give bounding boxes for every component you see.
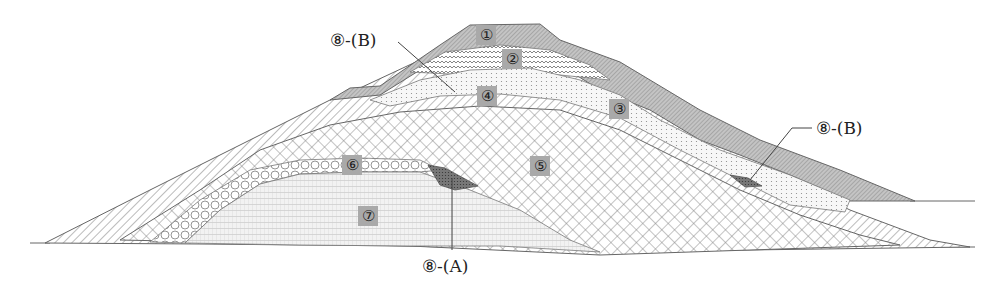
- layer-4-label: ④: [481, 89, 494, 104]
- layer-5-badge: ⑤: [530, 156, 550, 176]
- layer-7-badge: ⑦: [358, 206, 378, 226]
- cross-section-diagram: [0, 0, 1003, 294]
- layer-4-badge: ④: [477, 86, 497, 106]
- layer-2-badge: ②: [502, 49, 522, 69]
- layer-6-badge: ⑥: [342, 155, 362, 175]
- layer-1-label: ①: [480, 28, 493, 43]
- layer-5-label: ⑤: [534, 159, 547, 174]
- callout-8b-top: ⑧-(B): [330, 30, 377, 50]
- layer-1-badge: ①: [476, 25, 496, 45]
- callout-8a: ⑧-(A): [422, 256, 468, 276]
- layer-3-badge: ③: [609, 99, 629, 119]
- layer-3-label: ③: [613, 102, 626, 117]
- layer-6-label: ⑥: [346, 158, 359, 173]
- layer-2-label: ②: [506, 52, 519, 67]
- layer-7-label: ⑦: [362, 209, 375, 224]
- callout-8b-right: ⑧-(B): [816, 118, 863, 138]
